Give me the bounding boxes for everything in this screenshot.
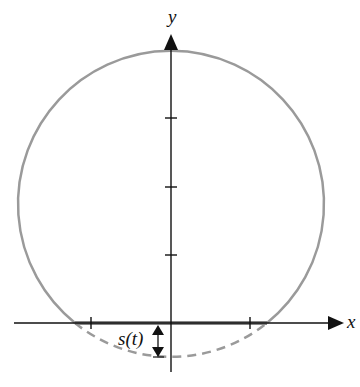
depth-label: s(t) [118, 328, 143, 350]
depth-arrow-up-icon [152, 325, 164, 335]
diagram-canvas [0, 0, 360, 387]
y-axis-arrow-icon [164, 34, 178, 50]
x-axis-arrow-icon [328, 316, 344, 330]
x-axis-label: x [347, 311, 355, 333]
y-axis-label: y [168, 6, 176, 28]
